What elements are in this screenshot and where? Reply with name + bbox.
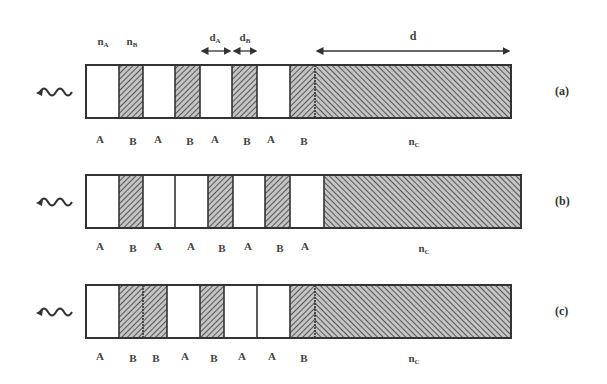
layer-label: A [181,350,189,362]
stack-b [86,175,521,228]
stack-a [86,65,511,118]
substrate-label-a: nC [408,135,419,149]
layer-label: B [243,135,250,147]
layer-label: A [96,133,104,145]
layer-label: B [210,352,217,364]
wavy-arrow-icon [36,199,72,207]
wavy-arrow-icon [36,309,72,317]
layer-label: A [187,240,195,252]
label-nB: nB [127,35,138,49]
layer-label: B [300,352,307,364]
layer-label: B [129,135,136,147]
layer-label: A [238,350,246,362]
label-nA: nA [97,35,108,49]
layer-label: B [300,135,307,147]
layer-label: A [244,240,252,252]
layer-label: A [154,240,162,252]
layer-label: A [267,133,275,145]
multilayer-diagram [0,0,607,384]
substrate-label-c: nC [408,352,419,366]
label-d: d [410,29,417,44]
label-dA: dA [209,31,220,45]
layer-label: A [301,240,309,252]
panel-label-c: (c) [555,304,568,319]
panel-label-a: (a) [555,84,569,99]
layer-label: B [186,135,193,147]
layer-label: B [129,352,136,364]
layer-label: B [152,352,159,364]
stack-c [86,285,511,338]
layer-label: A [154,133,162,145]
layer-label: B [218,242,225,254]
layer-label: A [96,350,104,362]
layer-label: A [96,240,104,252]
substrate-label-b: nC [418,242,429,256]
layer-label: B [276,242,283,254]
panel-label-b: (b) [555,194,570,209]
layer-label: A [211,133,219,145]
label-dB: dB [240,31,251,45]
layer-label: A [268,350,276,362]
layer-label: B [129,242,136,254]
wavy-arrow-icon [36,89,72,97]
